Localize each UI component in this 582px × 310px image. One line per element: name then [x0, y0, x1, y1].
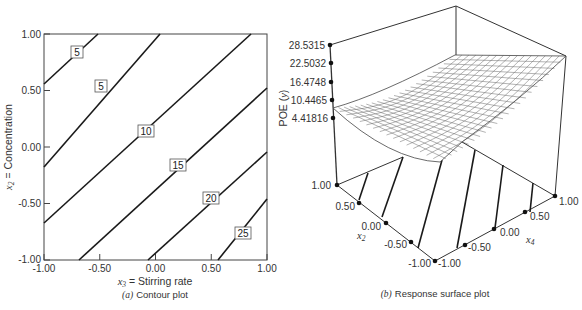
svg-text:5: 5 [98, 81, 104, 92]
surface-plot: 28.5315 22.5032 16.4748 10.4465 4.41816 … [277, 6, 579, 300]
x4-tick-label: -0.50 [468, 242, 491, 253]
x-tick-label: -0.50 [88, 263, 111, 274]
x-axis-label: x3 = Stirring rate [117, 275, 193, 289]
caption-b: (b)Response surface plot [381, 288, 490, 300]
contour-line-20 [148, 152, 267, 260]
x4-tick-label: 0.50 [530, 211, 550, 222]
contour-label: 25 [235, 227, 251, 239]
contour-plot: 1.00 0.50 0.00 -0.50 -1.00 -1.00 -0.50 0… [2, 29, 277, 301]
y-tick-label: 0.00 [22, 142, 42, 153]
x-tick-label: 1.00 [257, 263, 277, 274]
svg-text:20: 20 [205, 193, 217, 204]
x4-tick-label: 0.00 [500, 227, 520, 238]
x2-tick-label: 1.00 [312, 180, 332, 191]
z-tick-label: 22.5032 [290, 58, 327, 69]
svg-text:15: 15 [172, 160, 184, 171]
contour-label: 5 [71, 46, 83, 58]
x4-tick-label: -1.00 [438, 258, 461, 269]
z-tick-label: 16.4748 [290, 77, 327, 88]
y-tick-label: 1.00 [22, 29, 42, 40]
x2-tick-label: 0.50 [336, 201, 356, 212]
figure-canvas: 1.00 0.50 0.00 -0.50 -1.00 -1.00 -0.50 0… [0, 0, 582, 310]
y-axis-ticks [44, 34, 50, 260]
contour-line-5a [44, 34, 98, 84]
contour-label: 5 [95, 80, 107, 92]
surface-mesh [333, 55, 566, 162]
contour-label: 20 [203, 192, 219, 204]
z-tick-label: 28.5315 [289, 40, 326, 51]
contour-line-5b [44, 34, 160, 167]
contour-label: 10 [138, 125, 154, 137]
x-axis-ticks [44, 254, 267, 260]
z-tick-label: 4.41816 [292, 113, 329, 124]
x4-tick-label: 1.00 [559, 196, 579, 207]
x-tick-label: 0.50 [202, 263, 222, 274]
x-tick-label: 0.00 [146, 263, 166, 274]
x2-tick-label: 0.00 [362, 221, 382, 232]
svg-text:10: 10 [140, 126, 152, 137]
contour-lines [44, 34, 267, 260]
svg-text:25: 25 [237, 228, 249, 239]
contour-plot-frame [44, 34, 267, 260]
x4-axis-label: x4 [525, 234, 535, 247]
z-tick-label: 10.4465 [291, 95, 328, 106]
surface-floor [337, 142, 555, 261]
caption-a: (a)Contour plot [122, 289, 188, 301]
x-tick-label: -1.00 [33, 263, 56, 274]
x2-tick-label: -0.50 [384, 239, 407, 250]
x2-tick-label: -1.00 [408, 258, 431, 269]
y-axis-label: x2 = Concentration [2, 104, 16, 191]
y-tick-label: -0.50 [18, 198, 41, 209]
z-axis-label: POE (y) [277, 90, 289, 127]
svg-text:5: 5 [74, 47, 80, 58]
y-tick-label: 0.50 [22, 85, 42, 96]
contour-label: 15 [170, 159, 186, 171]
